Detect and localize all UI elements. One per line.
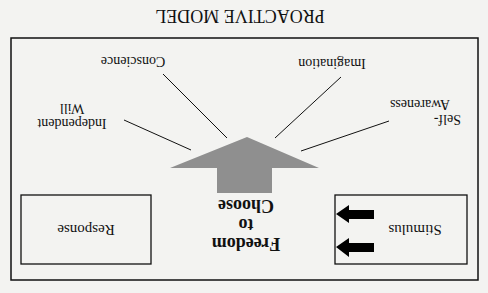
independent-will-line-1: Independent — [22, 116, 122, 131]
stimulus-label: Stimulus — [375, 221, 455, 237]
freedom-to-choose-label: Freedom to Choose — [196, 196, 296, 253]
line-conscience — [163, 74, 227, 138]
imagination-label: Imagination — [282, 55, 382, 70]
self-awareness-line-1: Self- — [375, 112, 465, 127]
self-awareness-label: Self- Awareness — [375, 97, 465, 126]
freedom-arrow-icon — [170, 137, 319, 193]
center-line-3: Choose — [196, 196, 296, 215]
independent-will-line-2: Will — [22, 101, 122, 116]
self-awareness-line-2: Awareness — [375, 97, 465, 112]
center-line-1: Freedom — [196, 234, 296, 253]
stimulus-arrow-icon-top — [336, 205, 374, 223]
response-label: Response — [46, 221, 126, 237]
diagram-title: PROACTIVE MODEL — [150, 6, 330, 25]
center-line-2: to — [196, 215, 296, 234]
conscience-label: Conscience — [88, 53, 178, 68]
stimulus-arrow-icon-bottom — [336, 238, 374, 257]
line-independent-will — [124, 120, 191, 150]
independent-will-label: Independent Will — [22, 101, 122, 130]
line-imagination — [275, 77, 341, 138]
